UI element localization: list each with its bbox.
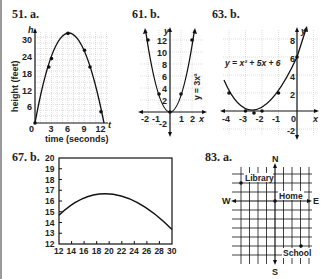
x-tick: 9	[82, 124, 87, 134]
x-tick: 30	[167, 246, 177, 256]
x-tick: 12	[96, 124, 106, 134]
y-tick: 8	[290, 36, 295, 46]
y-tick: 4	[162, 84, 167, 94]
x-tick: 12	[54, 246, 64, 256]
x-tick: 3	[49, 124, 54, 134]
south-arrow-icon	[273, 260, 277, 265]
home-label: Home	[279, 191, 303, 201]
y-tick: 20	[45, 153, 55, 163]
x-tick: 0	[291, 114, 296, 124]
chart-61b: y 12 10 8 6 4 2 -2 -2 -1 1 2 x y = 3x²	[138, 26, 207, 137]
y-tick: 2	[162, 96, 167, 106]
x-tick: 18	[92, 246, 102, 256]
x-tick: 1	[179, 114, 184, 124]
north-label: N	[272, 154, 279, 164]
west-arrow-icon	[231, 199, 236, 203]
x-tick: 28	[154, 246, 164, 256]
y-tick: -2	[287, 126, 295, 136]
equation-label: y = 3x²	[192, 73, 202, 100]
library-label: Library	[245, 173, 274, 183]
x-arrow-right-icon	[314, 109, 319, 113]
x-tick: 6	[65, 124, 70, 134]
y-tick: 15	[45, 207, 55, 217]
y-tick: 6	[27, 102, 32, 112]
x-var-label: x	[312, 114, 319, 124]
y-tick: -2	[159, 119, 167, 129]
x-tick: -1	[152, 114, 160, 124]
x-tick: -2	[256, 114, 264, 124]
x-tick: 2	[190, 114, 195, 124]
x-tick: 22	[117, 246, 127, 256]
x-tick: -4	[222, 114, 230, 124]
y-tick: 30	[22, 35, 32, 45]
y-var-label: h	[28, 25, 34, 35]
figures-canvas: h 30 24 18 12 6 0 3 6 9 12 t time (secon…	[0, 0, 324, 279]
east-arrow-icon	[307, 199, 312, 203]
y-tick: 18	[45, 175, 55, 185]
y-var-label: y	[300, 26, 307, 36]
grid-51a	[35, 32, 108, 123]
y-arrow-down-icon	[295, 135, 299, 140]
west-label: W	[222, 196, 231, 206]
school-label: School	[283, 248, 311, 258]
plot-frame-67b	[59, 158, 172, 244]
x-axis-title: time (seconds)	[45, 134, 109, 144]
x-var-label: t	[108, 120, 112, 130]
chart-51a: h 30 24 18 12 6 0 3 6 9 12 t time (secon…	[10, 25, 112, 144]
y-tick: 18	[22, 69, 32, 79]
y-tick: 12	[22, 86, 32, 96]
y-tick: 6	[290, 54, 295, 64]
curve-arrow-icon	[193, 28, 198, 34]
x-tick: -3	[239, 114, 247, 124]
curve-67b	[59, 194, 172, 230]
y-tick: 6	[162, 72, 167, 82]
x-tick: 14	[67, 246, 77, 256]
y-tick: 8	[162, 60, 167, 70]
y-tick: 19	[45, 164, 55, 174]
x-tick: -1	[272, 114, 280, 124]
y-axis-title: height (feet)	[10, 61, 20, 113]
chart-67b: 20 19 18 17 16 15 14 13 12 12 14 16 18 2…	[45, 153, 177, 256]
x-arrow-left-icon	[220, 109, 225, 113]
chart-63b: y 8 6 4 2 -2 -4 -3 -2 -1 0 x y = x² + 5x…	[220, 26, 319, 140]
y-tick: 17	[45, 185, 55, 195]
x-tick: 0	[29, 124, 34, 134]
y-tick: 13	[45, 228, 55, 238]
x-tick: 24	[129, 246, 139, 256]
y-tick: 12	[157, 36, 167, 46]
y-tick: 24	[22, 52, 32, 62]
x-var-label: x	[198, 114, 205, 124]
y-tick: 2	[290, 90, 295, 100]
y-tick: 14	[45, 218, 55, 228]
south-label: S	[272, 267, 278, 277]
east-label: E	[313, 196, 319, 206]
chart-83a: N S W E Library Home School	[222, 154, 319, 277]
y-var-label: y	[163, 26, 170, 36]
x-tick: 16	[79, 246, 89, 256]
x-tick: 20	[104, 246, 114, 256]
equation-label: y = x² + 5x + 6	[224, 58, 281, 68]
y-tick: 16	[45, 196, 55, 206]
y-tick: 4	[290, 72, 295, 82]
library-point	[239, 181, 243, 185]
y-tick: 10	[157, 48, 167, 58]
curve-51a	[35, 33, 104, 123]
x-tick: -2	[141, 114, 149, 124]
y-arrow-icon	[33, 28, 37, 33]
curve-arrow-icon	[143, 28, 148, 34]
x-tick: 26	[142, 246, 152, 256]
grid-63b	[223, 30, 318, 135]
home-point	[273, 199, 277, 203]
y-arrow-icon	[295, 27, 299, 32]
y-arrow-down-icon	[168, 132, 172, 137]
